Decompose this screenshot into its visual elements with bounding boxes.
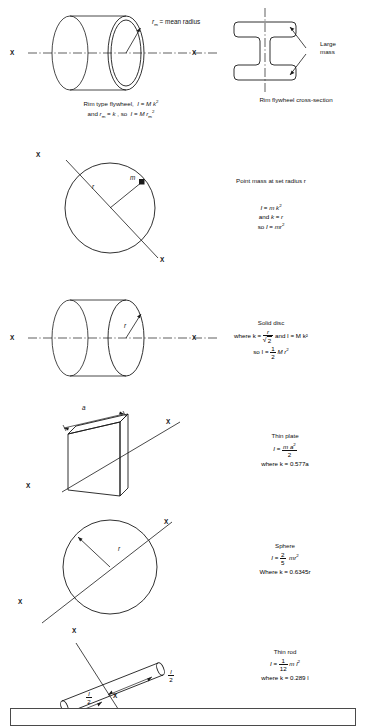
bottom-empty-box <box>10 708 356 726</box>
solid-disc-tail-label: M r2 <box>277 348 288 355</box>
half-length-label-right: l2 <box>164 668 178 683</box>
thin-rod-eq-lead: I = <box>270 660 277 667</box>
half-fraction: 1 2 <box>270 345 275 360</box>
axis-label-bottom-2: X <box>160 256 164 263</box>
sphere-radius-label: r <box>118 545 120 552</box>
thin-rod-diagram <box>40 625 220 720</box>
solid-disc-title: Solid disc <box>215 319 327 327</box>
cross-section-caption: Rim flywheel cross-section <box>226 96 366 104</box>
axis-label-left-1: X <box>10 49 14 56</box>
solid-disc-equations: where k = r 2 and I = M k² so I = 1 2 M … <box>209 328 333 360</box>
thin-plate-eq: I = m a2 2 <box>230 441 340 458</box>
sphere-eq-lead: I = <box>271 554 278 561</box>
solid-disc-radius-label: r <box>124 322 126 329</box>
solid-disc-eq-k: where k = r 2 and I = M k² <box>209 328 333 344</box>
axis-label-upper-5: X <box>164 518 168 525</box>
solid-disc-where-label: where k = <box>234 332 261 339</box>
sphere-title: Sphere <box>230 542 340 550</box>
axis-label-lower-4: X <box>26 482 30 489</box>
point-mass-eq-3: so I = mr2 <box>215 221 327 232</box>
thin-plate-diagram <box>50 400 230 496</box>
half-length-fraction-left: l2 <box>86 690 91 705</box>
thin-rod-fraction: 1 12 <box>279 657 288 672</box>
moment-of-inertia-chart: rm = mean radius X X Rim type flywheel, … <box>0 0 368 726</box>
rim-flywheel-caption: Rim type flywheel, I = M k2 and rm = k ,… <box>36 98 206 121</box>
thin-plate-side-label: a <box>82 404 86 411</box>
rim-flywheel-cross-section-diagram <box>230 8 310 94</box>
sphere-fraction: 2 5 <box>280 551 285 566</box>
thin-rod-title: Thin rod <box>230 648 340 656</box>
solid-disc-and-label: and I = M k² <box>275 332 308 339</box>
large-mass-line-1: Large <box>320 40 364 48</box>
sphere-eq-tail: mr2 <box>287 554 298 561</box>
axis-label-top-2: X <box>36 151 40 158</box>
point-mass-title: Point mass at set radius r <box>215 177 327 185</box>
mean-radius-label: rm = mean radius <box>152 18 200 27</box>
thin-plate-eq-where: where k = 0.577a <box>230 460 340 469</box>
half-length-label-left: l2 <box>82 690 96 705</box>
thin-rod-eq: I = 1 12 m l2 <box>230 657 340 672</box>
axis-label-upper-4: X <box>166 418 170 425</box>
half-length-fraction-right: l2 <box>168 668 173 683</box>
axis-label-right-3: X <box>192 334 196 341</box>
point-mass-symbol-label: m <box>130 174 135 181</box>
thin-rod-eq-where: where k = 0.289 l <box>230 674 340 683</box>
solid-disc-eq-i: so I = 1 2 M r2 <box>209 345 333 360</box>
large-mass-annotation: Large mass <box>320 40 364 56</box>
axis-label-lower-5: X <box>18 598 22 605</box>
axis-label-left-3: X <box>10 334 14 341</box>
solid-disc-so-label: so I = <box>253 348 268 355</box>
solid-disc-diagram <box>28 292 218 384</box>
k-fraction: r 2 <box>263 328 273 344</box>
sphere-equations: I = 2 5 mr2 Where k = 0.6345r <box>230 551 340 577</box>
rim-flywheel-caption-line-2: and rm = k , so I = M rm2 <box>36 108 206 121</box>
point-mass-eq-2: and k = r <box>215 213 327 222</box>
thin-plate-eq-lead: I = <box>273 445 280 452</box>
axis-label-right-1: X <box>192 49 196 56</box>
large-mass-line-2: mass <box>320 48 364 56</box>
axis-label-upper-6: X <box>72 627 76 634</box>
thin-plate-fraction: m a2 2 <box>282 441 297 458</box>
thin-rod-equations: I = 1 12 m l2 where k = 0.289 l <box>230 657 340 683</box>
sphere-diagram <box>22 505 212 625</box>
point-mass-eq-1: I = m k2 <box>215 202 327 213</box>
rim-flywheel-caption-line-1: Rim type flywheel, I = M k2 <box>36 98 206 108</box>
sphere-eq: I = 2 5 mr2 <box>230 551 340 566</box>
point-mass-diagram <box>30 148 210 268</box>
thin-plate-equations: I = m a2 2 where k = 0.577a <box>230 441 340 469</box>
point-mass-equations: I = m k2 and k = r so I = mr2 <box>215 202 327 232</box>
axis-label-lower-6: X <box>113 692 117 699</box>
sphere-eq-where: Where k = 0.6345r <box>230 568 340 577</box>
thin-plate-title: Thin plate <box>230 432 340 440</box>
point-mass-radius-label: r <box>92 183 94 190</box>
thin-rod-eq-tail: m l2 <box>289 660 300 667</box>
